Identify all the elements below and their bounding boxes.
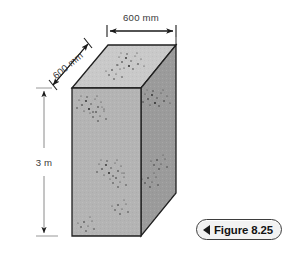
left-triangle-icon	[203, 225, 210, 235]
figure-caption-badge: Figure 8.25	[196, 219, 282, 240]
figure-container: 600 mm 600 mm 3 m Figure 8.25	[0, 0, 283, 257]
width-dimension: 600 mm	[107, 12, 176, 45]
depth-dimension-label: 600 mm	[50, 50, 85, 81]
width-dimension-label: 600 mm	[123, 12, 159, 23]
block-front-face	[72, 88, 141, 236]
figure-caption-label: Figure 8.25	[214, 224, 273, 236]
height-dimension: 3 m	[36, 88, 58, 236]
height-dimension-label: 3 m	[36, 157, 53, 168]
